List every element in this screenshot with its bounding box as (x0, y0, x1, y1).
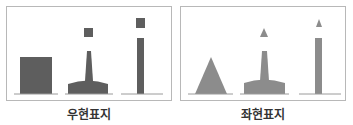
port-mark-caption: 좌현표지 (180, 105, 346, 122)
triangle-topmark-icon (260, 28, 268, 37)
starboard-mark-caption: 우현표지 (6, 105, 172, 122)
triangle-topmark-icon (316, 19, 322, 27)
port-mark-drawing (181, 7, 347, 102)
pillar-buoy-triangle-topmark (240, 28, 289, 94)
square-topmark-icon (84, 28, 93, 37)
pillar-buoy-square-topmark (65, 28, 113, 94)
starboard-mark-drawing (7, 7, 173, 102)
starboard-mark-panel (6, 6, 172, 101)
port-mark-panel (180, 6, 346, 101)
spar-buoy-triangle-topmark (299, 19, 341, 94)
cone-buoy (188, 57, 233, 94)
spar-buoy-square-topmark (121, 18, 163, 94)
square-topmark-icon (136, 18, 145, 28)
can-buoy (14, 57, 58, 94)
